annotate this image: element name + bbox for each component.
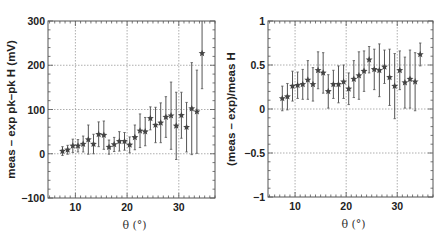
y-tick-label: 200 — [27, 59, 45, 71]
x-tick-label: 30 — [391, 200, 403, 212]
y-axis-title: (meas – exp)/meas H — [225, 52, 237, 166]
y-tick-label: 300 — [27, 15, 45, 27]
x-tick-label: 10 — [289, 200, 301, 212]
data-series — [59, 18, 205, 160]
x-tick-label: 20 — [121, 201, 133, 213]
y-tick-label: 100 — [27, 104, 45, 116]
x-axis-title: θ (°) — [341, 218, 365, 231]
chart-canvas: 102030−1000100200300θ (°)meas – exp pk–p… — [0, 0, 447, 237]
data-series — [279, 43, 424, 119]
y-tick-label: −0.5 — [244, 147, 265, 159]
x-tick-label: 20 — [340, 200, 352, 212]
y-tick-label: 0 — [259, 103, 265, 115]
y-tick-label: −1 — [253, 191, 265, 203]
y-tick-label: 1 — [259, 15, 265, 27]
y-tick-label: −100 — [21, 192, 45, 204]
right-panel-relative-difference: 102030−1−0.500.51θ (°)(meas – exp)/meas … — [225, 15, 433, 231]
x-axis-title: θ (°) — [122, 219, 146, 232]
x-tick-label: 30 — [173, 201, 185, 213]
figure: 102030−1000100200300θ (°)meas – exp pk–p… — [0, 0, 447, 237]
y-tick-label: 0 — [39, 148, 45, 160]
y-axis-title: meas – exp pk–pk H (mV) — [5, 40, 17, 179]
x-tick-label: 10 — [70, 201, 82, 213]
left-panel-meas-minus-exp-mV: 102030−1000100200300θ (°)meas – exp pk–p… — [5, 15, 215, 232]
y-tick-label: 0.5 — [250, 59, 265, 71]
